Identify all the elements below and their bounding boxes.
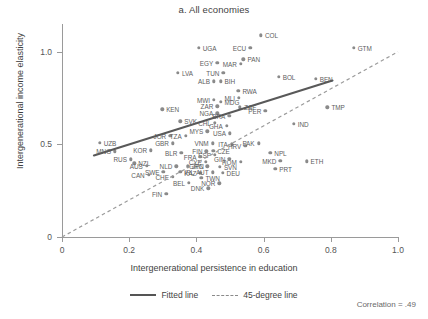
data-point[interactable] — [205, 130, 208, 133]
data-point[interactable] — [221, 171, 224, 174]
data-point[interactable] — [145, 164, 148, 167]
data-point[interactable] — [212, 80, 215, 83]
data-point[interactable] — [147, 173, 150, 176]
data-point[interactable] — [277, 75, 280, 78]
data-point[interactable] — [225, 124, 228, 127]
data-point-label: KAZ — [184, 170, 196, 177]
data-point-label: BRA — [212, 112, 225, 119]
data-point[interactable] — [279, 159, 282, 162]
data-point-label: UZB — [104, 139, 117, 146]
data-point[interactable] — [237, 89, 240, 92]
data-point[interactable] — [292, 122, 295, 125]
data-point[interactable] — [204, 160, 207, 163]
data-point[interactable] — [171, 175, 174, 178]
data-point[interactable] — [218, 182, 221, 185]
data-point[interactable] — [197, 46, 200, 49]
data-point-label: BLR — [165, 149, 177, 156]
data-point-label: GBR — [155, 140, 169, 147]
data-point[interactable] — [264, 109, 267, 112]
y-tick-label: 1.0 — [4, 47, 52, 57]
chart-container: a. All economies 00.51.0 00.20.40.60.81.… — [0, 0, 428, 319]
x-axis-line — [62, 237, 398, 238]
data-point-label: MKD — [262, 158, 276, 165]
data-point-label: USA — [213, 130, 226, 137]
data-point[interactable] — [211, 142, 214, 145]
data-point[interactable] — [171, 142, 174, 145]
x-tick-mark — [398, 237, 399, 242]
data-point-label: RWA — [242, 87, 256, 94]
data-point-label: GTM — [358, 45, 372, 52]
data-point[interactable] — [314, 77, 317, 80]
data-point[interactable] — [205, 165, 208, 168]
data-point[interactable] — [228, 132, 231, 135]
data-point[interactable] — [222, 71, 225, 74]
data-point[interactable] — [179, 120, 182, 123]
dashed-line-swatch-icon — [212, 295, 238, 296]
x-tick-mark — [129, 237, 130, 242]
data-point[interactable] — [164, 192, 167, 195]
data-point[interactable] — [149, 149, 152, 152]
data-point[interactable] — [180, 151, 183, 154]
data-point-label: SVK — [184, 118, 197, 125]
data-point[interactable] — [184, 134, 187, 137]
data-point[interactable] — [206, 187, 209, 190]
data-point[interactable] — [179, 170, 182, 173]
data-point[interactable] — [269, 151, 272, 154]
data-point[interactable] — [326, 106, 329, 109]
data-point[interactable] — [160, 107, 163, 110]
data-point[interactable] — [248, 46, 251, 49]
x-tick-label: 0.6 — [244, 245, 284, 255]
x-axis-title: Intergenerational persistence in educati… — [0, 263, 428, 273]
data-point[interactable] — [129, 158, 132, 161]
data-point-label: PAK — [242, 140, 254, 147]
data-point-label: MNG — [96, 148, 111, 155]
data-point[interactable] — [352, 46, 355, 49]
legend-label-fitted-line: Fitted line — [161, 290, 198, 300]
data-point[interactable] — [113, 150, 116, 153]
data-point[interactable] — [242, 57, 245, 60]
data-point[interactable] — [219, 100, 222, 103]
data-point-label: TMP — [331, 104, 344, 111]
data-point-label: IND — [298, 121, 309, 128]
data-point-label: ALB — [198, 78, 210, 85]
data-point[interactable] — [274, 167, 277, 170]
data-point[interactable] — [98, 141, 101, 144]
solid-line-swatch-icon — [130, 294, 156, 296]
data-point-label: MAR — [223, 60, 237, 67]
data-point-label: JOR — [154, 133, 167, 140]
data-point[interactable] — [239, 160, 242, 163]
data-point-label: PAN — [247, 56, 260, 63]
legend-item-fitted-line: Fitted line — [130, 290, 198, 300]
data-point[interactable] — [228, 114, 231, 117]
data-point-label: BIH — [225, 78, 236, 85]
data-point-label: TZA — [170, 133, 182, 140]
data-point[interactable] — [216, 61, 219, 64]
data-point[interactable] — [212, 98, 215, 101]
data-point[interactable] — [176, 71, 179, 74]
data-point[interactable] — [218, 165, 221, 168]
data-point-label: CZE — [217, 147, 230, 154]
data-point-label: LVA — [182, 70, 193, 77]
data-point[interactable] — [259, 33, 262, 36]
data-point-label: TUN — [206, 70, 219, 77]
data-point-label: MDG — [225, 98, 240, 105]
data-point[interactable] — [175, 165, 178, 168]
data-point[interactable] — [305, 160, 308, 163]
chart-legend: Fitted line 45-degree line — [0, 290, 428, 300]
data-point[interactable] — [239, 62, 242, 65]
x-tick-mark — [62, 237, 63, 242]
data-point[interactable] — [211, 170, 214, 173]
chart-title: a. All economies — [0, 4, 428, 15]
data-point[interactable] — [219, 80, 222, 83]
data-point[interactable] — [216, 105, 219, 108]
data-point[interactable] — [257, 142, 260, 145]
legend-label-45-degree-line: 45-degree line — [243, 290, 297, 300]
data-point-label: KEN — [166, 106, 179, 113]
data-point-label: CHE — [156, 173, 169, 180]
data-point-label: BEL — [173, 179, 185, 186]
data-point[interactable] — [238, 106, 241, 109]
data-point-label: KOR — [133, 147, 147, 154]
x-tick-label: 0.4 — [176, 245, 216, 255]
correlation-annotation: Correlation = .49 — [357, 300, 416, 309]
data-point-label: ECU — [233, 45, 246, 52]
